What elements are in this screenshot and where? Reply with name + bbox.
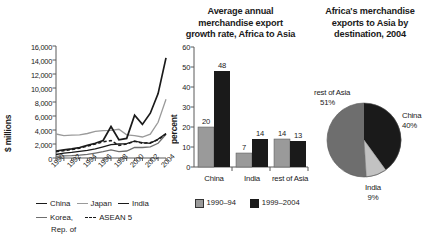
pie-label-china-value: 40% xyxy=(402,121,421,131)
pie-label-rest-of-asia-value: 51% xyxy=(320,98,350,108)
bar-category-rest-of-asia: rest of Asia xyxy=(267,174,313,183)
legend-item-1990-94: 1990–94 xyxy=(195,198,236,208)
bar-value-china-late: 48 xyxy=(212,61,232,70)
pie-label-china-name: China xyxy=(402,111,421,121)
legend-label-1999-2004: 1999–2004 xyxy=(262,198,300,207)
pie-label-china: China 40% xyxy=(402,111,421,130)
three-panel-chart-figure: $ millions 16,000 14,000 12,000 10,000 8… xyxy=(0,0,428,245)
bar-value-rest-late: 13 xyxy=(288,131,308,140)
asean-line-swatch-icon xyxy=(85,217,96,218)
pie-label-india-name: India xyxy=(356,183,390,193)
legend-item-china: China xyxy=(36,199,70,208)
legend-label-korea: Korea, xyxy=(50,213,73,222)
japan-line-swatch-icon xyxy=(77,203,88,204)
pie-label-india: India 9% xyxy=(356,183,390,202)
legend-label-1990-94: 1990–94 xyxy=(207,198,237,207)
china-line-swatch-icon xyxy=(36,203,47,204)
legend-item-asean: ASEAN 5 xyxy=(85,213,132,222)
pie-label-india-value: 9% xyxy=(356,193,390,203)
bar-value-india-late: 14 xyxy=(250,129,270,138)
legend-item-korea: Korea, xyxy=(36,213,73,222)
legend-label-china: China xyxy=(50,199,70,208)
early-period-swatch-icon xyxy=(195,199,204,208)
legend-label-japan: Japan xyxy=(91,199,112,208)
bar-category-china: China xyxy=(194,174,234,183)
korea-line-swatch-icon xyxy=(36,217,47,218)
legend-item-1999-2004: 1999–2004 xyxy=(250,198,300,208)
pie-chart-panel: Africa's merchandise exports to Asia by … xyxy=(312,0,428,245)
bar-chart-panel: Average annual merchandise export growth… xyxy=(168,0,313,245)
legend-label-india: India xyxy=(132,199,149,208)
legend-item-japan: Japan xyxy=(77,199,112,208)
bar-value-india-early: 7 xyxy=(234,143,254,152)
line-chart-panel: $ millions 16,000 14,000 12,000 10,000 8… xyxy=(0,0,178,245)
line-chart-legend-row-2: Korea, ASEAN 5 xyxy=(36,213,136,222)
pie-label-rest-of-asia-name: rest of Asia xyxy=(314,88,350,98)
line-chart-plot xyxy=(0,0,178,200)
bar-category-india: India xyxy=(232,174,272,183)
pie-label-rest-of-asia: rest of Asia 51% xyxy=(314,88,350,107)
bar-value-china-early: 20 xyxy=(196,117,216,126)
legend-label-asean: ASEAN 5 xyxy=(99,213,132,222)
legend-label-korea-line2: Rep. of xyxy=(51,225,76,234)
late-period-swatch-icon xyxy=(250,199,259,208)
legend-item-india: India xyxy=(118,199,149,208)
bar-chart-legend: 1990–94 1999–2004 xyxy=(195,198,304,208)
bar-chart-plot xyxy=(168,0,313,200)
india-line-swatch-icon xyxy=(118,203,129,204)
line-chart-legend-row-1: China Japan India xyxy=(36,199,153,208)
